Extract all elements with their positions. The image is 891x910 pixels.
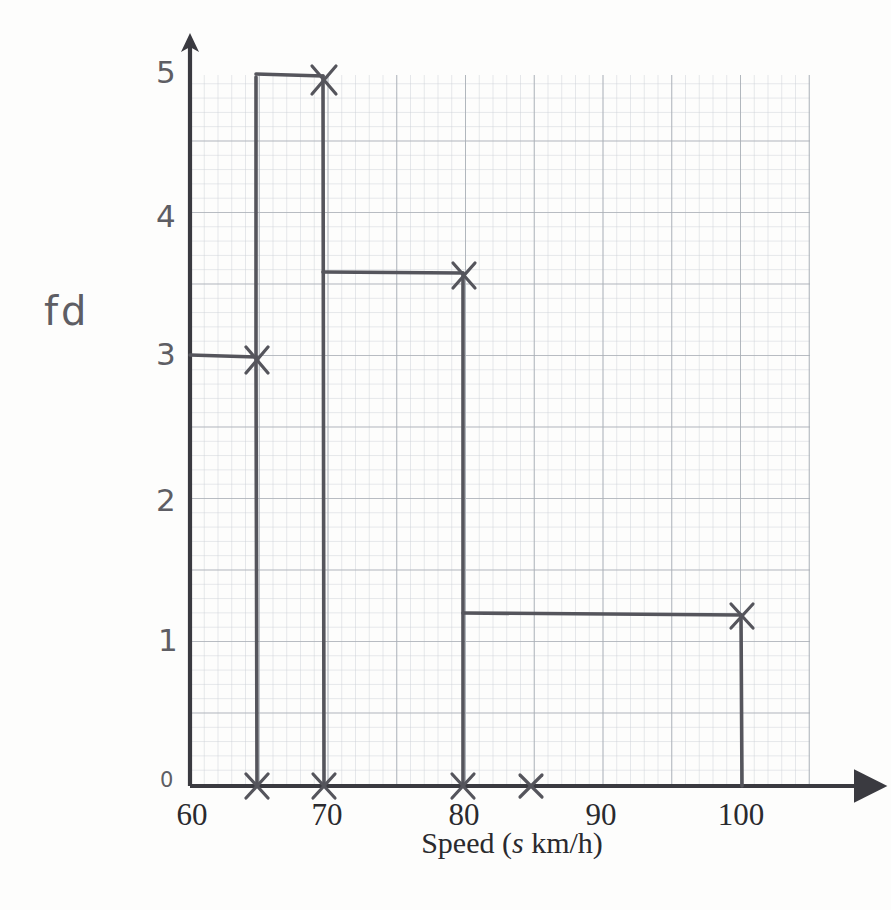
x-tick-label-70: 70 — [312, 797, 343, 833]
y-tick-label-2: 2 — [156, 482, 176, 518]
y-tick-label-3: 3 — [156, 336, 176, 372]
histogram-figure: fd 5 4 3 2 1 0 60 70 80 90 100 Speed (s … — [0, 0, 891, 910]
y-tick-label-4: 4 — [156, 198, 176, 234]
y-tick-label-0: 0 — [160, 768, 174, 792]
histogram-canvas — [0, 0, 891, 910]
y-tick-label-5: 5 — [156, 54, 176, 90]
y-axis-label-fd: fd — [44, 288, 89, 334]
x-axis-label-suffix: km/h) — [524, 826, 603, 859]
x-axis-label: Speed (s km/h) — [421, 826, 603, 860]
x-tick-label-100: 100 — [718, 797, 765, 833]
y-tick-label-1: 1 — [158, 622, 178, 658]
x-axis-label-prefix: Speed ( — [421, 826, 512, 859]
grid-major — [190, 75, 810, 786]
x-axis-label-variable: s — [512, 826, 524, 859]
x-tick-label-60: 60 — [177, 797, 208, 833]
